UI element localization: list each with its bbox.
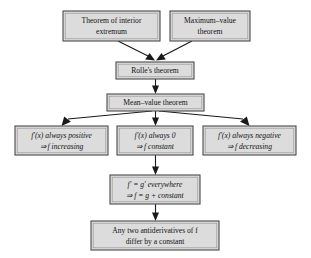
- node-f-prime-negative[interactable]: f′(x) always negative ⇒ f decreasing: [203, 126, 296, 155]
- node-f-equals-g-everywhere-line-0: f′ = g′ everywhere: [128, 180, 183, 189]
- node-f-prime-zero[interactable]: f′(x) always 0 ⇒ f constant: [117, 126, 193, 155]
- edge-fg-to-antiderivatives: [152, 204, 159, 221]
- edge-interior-to-rolle: [118, 41, 155, 61]
- edge-mvt-to-positive: [62, 111, 153, 126]
- edge-zero-to-fg: [152, 155, 159, 175]
- node-maximum-value-theorem-line-0: Maximum–value: [184, 16, 237, 25]
- node-f-equals-g-everywhere-line-1: ⇒ f = g + constant: [126, 191, 184, 200]
- node-rolles-theorem[interactable]: Rolle's theorem: [116, 62, 194, 79]
- edge-maxvalue-to-rolle: [156, 41, 192, 61]
- node-mean-value-theorem-label: Mean–value theorem: [123, 98, 187, 107]
- node-antiderivatives-differ-line-0: Any two antiderivatives of f: [112, 226, 198, 235]
- edge-rolle-to-mvt: [152, 79, 159, 94]
- node-interior-extremum-line-0: Theorem of interior: [82, 16, 142, 25]
- node-f-prime-zero-line-1: ⇒ f constant: [136, 142, 175, 151]
- node-f-prime-negative-line-1: ⇒ f decreasing: [227, 142, 272, 151]
- flowchart-page: Theorem of interior extremum Maximum–val…: [0, 0, 311, 258]
- node-maximum-value-theorem[interactable]: Maximum–value theorem: [170, 11, 250, 41]
- node-rolles-theorem-label: Rolle's theorem: [131, 66, 179, 75]
- node-antiderivatives-differ[interactable]: Any two antiderivatives of f differ by a…: [91, 221, 219, 250]
- node-f-prime-positive-line-1: ⇒ f increasing: [40, 142, 84, 151]
- edge-mvt-to-negative: [159, 111, 250, 126]
- node-antiderivatives-differ-line-1: differ by a constant: [126, 237, 186, 246]
- flowchart-canvas: Theorem of interior extremum Maximum–val…: [0, 0, 311, 258]
- node-f-prime-zero-line-0: f′(x) always 0: [135, 131, 176, 140]
- node-interior-extremum[interactable]: Theorem of interior extremum: [63, 11, 160, 41]
- node-interior-extremum-line-1: extremum: [96, 27, 127, 36]
- node-f-equals-g-everywhere[interactable]: f′ = g′ everywhere ⇒ f = g + constant: [110, 175, 200, 204]
- node-f-prime-negative-line-0: f′(x) always negative: [218, 131, 281, 140]
- edge-mvt-to-zero: [152, 111, 159, 126]
- node-maximum-value-theorem-line-1: theorem: [198, 27, 223, 36]
- node-f-prime-positive-line-0: f′(x) always positive: [31, 131, 92, 140]
- node-mean-value-theorem[interactable]: Mean–value theorem: [107, 94, 204, 111]
- node-f-prime-positive[interactable]: f′(x) always positive ⇒ f increasing: [15, 126, 108, 155]
